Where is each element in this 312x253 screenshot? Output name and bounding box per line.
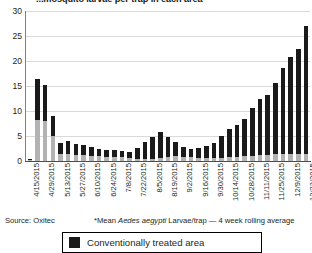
bar-column[interactable] — [156, 11, 164, 161]
bar-column[interactable] — [64, 11, 72, 161]
bar-segment-treated — [81, 155, 86, 162]
bar-column[interactable] — [264, 11, 272, 161]
bar-segment-conventional — [196, 148, 201, 158]
bar-segment-treated — [281, 154, 286, 161]
bar-segment-treated — [166, 157, 171, 161]
bar-column[interactable] — [41, 11, 49, 161]
bar-segment-conventional — [235, 125, 240, 157]
method-note-species: Aedes aegypti — [118, 216, 166, 225]
bar-segment-treated — [304, 154, 309, 162]
bar-column[interactable] — [287, 11, 295, 161]
bar-column[interactable] — [225, 11, 233, 161]
bar-segment-treated — [296, 154, 301, 161]
bar-segment-treated — [219, 158, 224, 162]
y-axis-tick: 15 — [2, 82, 22, 91]
bar-segment-conventional — [204, 146, 209, 159]
bar-segment-conventional — [296, 49, 301, 154]
bar-column[interactable] — [26, 11, 34, 161]
y-axis-tick: 30 — [2, 7, 22, 16]
bar-column[interactable] — [279, 11, 287, 161]
bar-column[interactable] — [272, 11, 280, 161]
bar-segment-treated — [242, 156, 247, 161]
bar-segment-treated — [135, 159, 140, 162]
bar-segment-conventional — [51, 116, 56, 136]
bar-column[interactable] — [248, 11, 256, 161]
bar-segment-conventional — [219, 136, 224, 158]
bar-segment-treated — [273, 154, 278, 161]
bar-segment-treated — [127, 158, 132, 161]
bar-segment-conventional — [250, 108, 255, 156]
x-axis-tick: 5/27/2015 — [79, 163, 87, 197]
bar-segment-conventional — [89, 147, 94, 156]
bar-segment-conventional — [104, 150, 109, 157]
bar-column[interactable] — [118, 11, 126, 161]
method-note-prefix: *Mean — [94, 216, 118, 225]
bar-segment-treated — [227, 157, 232, 161]
bar-column[interactable] — [295, 11, 303, 161]
x-axis-tick: 6/10/2015 — [94, 163, 102, 197]
bar-column[interactable] — [95, 11, 103, 161]
bar-column[interactable] — [172, 11, 180, 161]
bar-column[interactable] — [72, 11, 80, 161]
bar-column[interactable] — [87, 11, 95, 161]
y-axis-tick: 20 — [2, 57, 22, 66]
bar-segment-treated — [189, 157, 194, 161]
bar-column[interactable] — [210, 11, 218, 161]
bar-segment-conventional — [242, 119, 247, 156]
bar-segment-treated — [265, 155, 270, 162]
bar-column[interactable] — [187, 11, 195, 161]
bar-column[interactable] — [133, 11, 141, 161]
bar-column[interactable] — [57, 11, 65, 161]
x-axis-tick: 9/30/2015 — [217, 163, 225, 197]
bar-series-group — [26, 11, 310, 161]
x-axis-tick: 7/22/2015 — [140, 163, 148, 197]
bar-segment-treated — [74, 155, 79, 162]
bar-column[interactable] — [179, 11, 187, 161]
bar-segment-treated — [181, 157, 186, 162]
y-axis-tick-labels: 051015202530 — [0, 0, 22, 172]
bar-segment-treated — [51, 136, 56, 161]
bar-column[interactable] — [241, 11, 249, 161]
bar-column[interactable] — [195, 11, 203, 161]
x-axis-tick: 4/15/2015 — [33, 163, 41, 197]
bar-segment-treated — [288, 154, 293, 162]
bar-column[interactable] — [49, 11, 57, 161]
bar-column[interactable] — [80, 11, 88, 161]
bar-segment-conventional — [281, 68, 286, 154]
bar-column[interactable] — [233, 11, 241, 161]
bar-column[interactable] — [256, 11, 264, 161]
bar-column[interactable] — [110, 11, 118, 161]
bar-segment-treated — [97, 156, 102, 161]
bar-column[interactable] — [141, 11, 149, 161]
bar-column[interactable] — [202, 11, 210, 161]
bar-segment-conventional — [143, 142, 148, 159]
bar-column[interactable] — [218, 11, 226, 161]
bar-column[interactable] — [164, 11, 172, 161]
x-axis-tick: 8/19/2015 — [171, 163, 179, 197]
bar-segment-conventional — [97, 149, 102, 157]
x-axis-tick: 6/24/2015 — [110, 163, 118, 197]
bar-segment-conventional — [212, 143, 217, 158]
y-axis-tick: 25 — [2, 32, 22, 41]
bar-column[interactable] — [126, 11, 134, 161]
bar-segment-conventional — [304, 26, 309, 154]
bar-segment-treated — [250, 156, 255, 162]
bar-segment-treated — [112, 157, 117, 162]
y-axis-tick: 0 — [2, 157, 22, 166]
bar-segment-conventional — [173, 142, 178, 157]
bar-column[interactable] — [103, 11, 111, 161]
bar-column[interactable] — [302, 11, 310, 161]
x-axis-tick: 9/2/2015 — [186, 163, 194, 193]
x-axis-tick: 8/5/2015 — [156, 163, 164, 193]
bar-segment-conventional — [66, 141, 71, 155]
bar-segment-treated — [235, 157, 240, 162]
bar-segment-treated — [150, 159, 155, 162]
bar-segment-conventional — [43, 85, 48, 122]
bar-column[interactable] — [34, 11, 42, 161]
bar-segment-treated — [173, 156, 178, 161]
legend-swatch-conventional — [69, 237, 80, 248]
method-note: *Mean Aedes aegypti Larvae/trap — 4 week… — [94, 216, 295, 225]
chart-legend: Conventionally treated area — [62, 232, 262, 253]
bar-segment-treated — [120, 157, 125, 161]
bar-column[interactable] — [149, 11, 157, 161]
